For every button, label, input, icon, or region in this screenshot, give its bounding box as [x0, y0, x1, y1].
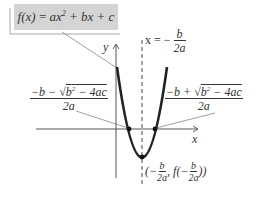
function-leader-line [62, 32, 117, 68]
left-root-point [127, 127, 132, 132]
function-label-box: f(x) = ax2 + bx + c [14, 4, 118, 30]
function-label: f(x) = ax2 + bx + c [18, 10, 115, 23]
vertex-label: (−b2a, f(−b2a)) [145, 161, 207, 183]
right-root-label: −b + √b2 − 4ac2a [165, 86, 243, 112]
left-root-leader-line [76, 111, 128, 128]
right-root-point [153, 127, 158, 132]
y-axis-label: y [103, 41, 108, 53]
x-axis-label: x [192, 133, 197, 145]
vertex-point [140, 155, 145, 160]
left-root-label: −b − √b2 − 4ac2a [30, 86, 108, 112]
right-root-leader-line [156, 113, 215, 128]
axis-of-symmetry-label: x = − b2a [145, 28, 186, 54]
